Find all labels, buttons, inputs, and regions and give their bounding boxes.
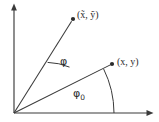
rotation-angle-label: φ — [60, 56, 67, 67]
initial-angle-label: φ0 — [73, 88, 85, 102]
ray-to-original-point — [14, 65, 110, 113]
y-axis-arrow-icon — [11, 4, 17, 11]
original-point-label: (x, y) — [117, 57, 139, 67]
original-point-dot — [110, 62, 114, 66]
initial-angle-arc — [104, 69, 114, 113]
rotation-angle-symbol: φ — [60, 55, 67, 68]
transformed-point-label: (x̃, ỹ) — [77, 10, 99, 20]
transformed-point-dot — [71, 17, 75, 21]
polar-angle-diagram: (x̃, ỹ) (x, y) φ φ0 — [0, 0, 159, 122]
x-axis-arrow-icon — [147, 110, 154, 116]
initial-angle-subscript: 0 — [80, 93, 85, 102]
